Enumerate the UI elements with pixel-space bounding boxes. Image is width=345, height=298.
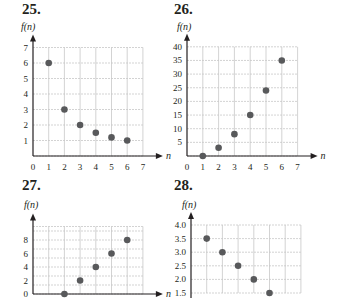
x-tick-label: 2 — [62, 162, 67, 172]
y-tick-label: 30 — [173, 69, 183, 79]
x-tick-label: 0 — [185, 162, 190, 172]
y-tick-label: 10 — [173, 124, 183, 134]
x-tick-label: 7 — [141, 162, 146, 172]
y-tick-label: 0 — [24, 289, 29, 298]
data-point — [203, 235, 210, 242]
x-tick-label: 4 — [94, 162, 99, 172]
data-point — [219, 249, 226, 256]
y-tick-label: 2 — [24, 276, 29, 286]
y-tick-label: 15 — [173, 110, 183, 120]
y-tick-label: 1 — [24, 136, 29, 146]
y-tick-label: 5 — [24, 74, 29, 84]
x-tick-label: 6 — [280, 162, 285, 172]
data-point — [61, 291, 68, 298]
y-axis-arrow-icon — [188, 212, 194, 219]
y-tick-label: 1.5 — [175, 288, 187, 298]
y-tick-label: 3.5 — [175, 234, 187, 244]
x-axis-label: n — [166, 150, 171, 161]
y-axis-arrow-icon — [30, 35, 36, 42]
x-axis-label: n — [166, 288, 171, 298]
data-point — [108, 134, 115, 141]
x-axis-arrow-icon — [156, 291, 163, 297]
y-tick-label: 6 — [24, 249, 29, 259]
data-point — [215, 145, 222, 152]
y-tick-label: 6 — [24, 58, 29, 68]
data-point — [200, 153, 207, 160]
x-tick-label: 0 — [31, 162, 36, 172]
data-point — [108, 250, 115, 257]
y-tick-label: 3.0 — [175, 247, 187, 257]
y-tick-label: 40 — [173, 42, 183, 52]
y-tick-label: 4.0 — [175, 220, 187, 230]
x-axis-label: n — [321, 150, 326, 161]
x-axis-arrow-icon — [311, 153, 318, 159]
y-tick-label: 3 — [24, 105, 29, 115]
x-tick-label: 7 — [295, 162, 300, 172]
y-tick-label: 5 — [178, 137, 183, 147]
y-tick-label: 7 — [24, 43, 29, 53]
data-point — [235, 263, 242, 270]
y-axis-arrow-icon — [184, 34, 190, 41]
data-point — [266, 290, 273, 297]
x-axis-arrow-icon — [156, 153, 163, 159]
x-tick-label: 1 — [46, 162, 51, 172]
y-tick-label: 2.0 — [175, 274, 187, 284]
y-tick-label: 2.5 — [175, 261, 187, 271]
y-tick-label: 4 — [24, 89, 29, 99]
y-tick-label: 25 — [173, 83, 183, 93]
data-point — [77, 277, 84, 284]
data-point — [251, 276, 258, 283]
y-tick-label: 4 — [24, 262, 29, 272]
data-point — [45, 60, 52, 67]
data-point — [231, 131, 238, 138]
y-tick-label: 20 — [173, 96, 183, 106]
data-point — [124, 137, 131, 144]
plots-canvas: n012345671234567n01234567510152025303540… — [0, 0, 345, 298]
x-tick-label: 6 — [125, 162, 130, 172]
x-tick-label: 1 — [201, 162, 206, 172]
data-point — [124, 237, 131, 244]
data-point — [77, 122, 84, 129]
y-tick-label: 8 — [24, 235, 29, 245]
data-point — [93, 264, 100, 271]
x-tick-label: 5 — [109, 162, 114, 172]
data-point — [247, 112, 254, 119]
x-tick-label: 2 — [216, 162, 221, 172]
y-tick-label: 2 — [24, 120, 29, 130]
y-tick-label: 35 — [173, 55, 183, 65]
data-point — [279, 57, 286, 64]
data-point — [263, 87, 270, 94]
x-tick-label: 3 — [232, 162, 237, 172]
data-point — [61, 106, 68, 113]
x-tick-label: 5 — [264, 162, 269, 172]
x-tick-label: 4 — [248, 162, 253, 172]
y-axis-arrow-icon — [30, 214, 36, 221]
data-point — [93, 129, 100, 136]
x-tick-label: 3 — [78, 162, 83, 172]
